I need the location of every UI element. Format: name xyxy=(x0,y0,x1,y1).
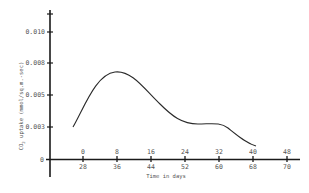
x-bottom-tick-label: 68 xyxy=(249,163,257,171)
x-bottom-tick-label: 28 xyxy=(79,163,87,171)
x-top-tick-label: 8 xyxy=(115,148,119,156)
x-bottom-tick-label: 44 xyxy=(147,163,155,171)
y-tick-label: 0.008 xyxy=(25,59,45,67)
x-top-tick-label: 32 xyxy=(215,148,223,156)
co2-uptake-chart: 0.010 0.008 0.005 0.003 0 CO2 uptake (mm… xyxy=(0,0,309,193)
x-bottom-tick-label: 52 xyxy=(181,163,189,171)
x-bottom-tick-label: 70 xyxy=(283,163,291,171)
x-top-tick-label: 0 xyxy=(81,148,85,156)
y-tick-label: 0.010 xyxy=(25,28,45,36)
x-bottom-tick-label: 36 xyxy=(113,163,121,171)
y-tick-label: 0 xyxy=(40,156,44,164)
y-tick-label: 0.005 xyxy=(25,91,45,99)
x-top-tick-label: 40 xyxy=(249,148,257,156)
y-tick-label: 0.003 xyxy=(25,123,45,131)
x-top-tick-label: 16 xyxy=(147,148,155,156)
x-bottom-tick-label: 60 xyxy=(215,163,223,171)
x-bottom-tick-labels: 28 36 44 52 60 68 70 xyxy=(79,163,291,171)
x-top-tick-label: 48 xyxy=(283,148,291,156)
x-top-tick-labels: 0 8 16 24 32 40 48 xyxy=(81,148,291,156)
co2-uptake-curve xyxy=(73,72,256,146)
y-axis-title: CO2 uptake (mmol/sq.m.-sec) xyxy=(18,62,26,151)
x-axis-title: Time in days xyxy=(146,173,186,180)
x-top-tick-label: 24 xyxy=(181,148,189,156)
y-tick-labels: 0.010 0.008 0.005 0.003 0 xyxy=(25,28,45,164)
